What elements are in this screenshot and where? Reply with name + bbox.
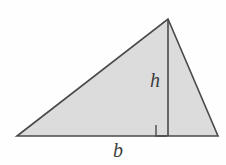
base-label: b (113, 140, 123, 160)
triangle-figure: h b (0, 0, 226, 165)
height-label: h (150, 70, 160, 90)
